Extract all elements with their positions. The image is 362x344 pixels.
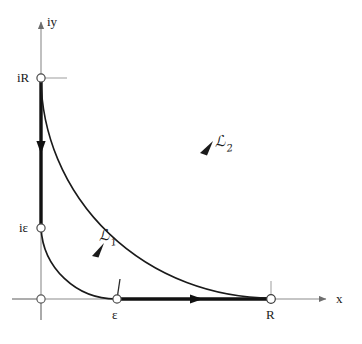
complex-contour-figure: iy x iR iε ε R ℒ1 ℒ2	[0, 0, 362, 344]
point-marker-origin	[37, 295, 45, 303]
large-arc-arrow	[200, 141, 213, 156]
contour-label-small-arc-subscript: 1	[110, 236, 118, 248]
real-axis-segment-arrow	[190, 295, 203, 304]
point-label-i-R: iR	[17, 71, 29, 84]
contour-label-large-arc-subscript: 2	[226, 142, 234, 154]
point-marker-i-epsilon	[37, 224, 45, 232]
contour-label-small-arc-letter: ℒ	[98, 226, 111, 245]
x-axis-label: x	[336, 292, 343, 305]
point-marker-i-R	[37, 74, 45, 82]
imaginary-axis-segment-arrow	[36, 141, 45, 154]
point-label-epsilon: ε	[112, 308, 117, 321]
point-label-i-epsilon: iε	[19, 221, 28, 234]
contour-label-large-arc: ℒ2	[214, 133, 233, 153]
large-arc-path	[41, 78, 271, 298]
guide-ticks	[12, 78, 271, 320]
contour-label-small-arc: ℒ1	[98, 227, 117, 247]
contour-label-large-arc-letter: ℒ	[214, 132, 227, 151]
point-label-R: R	[266, 308, 275, 321]
contour-diagram-canvas	[0, 0, 362, 344]
y-axis-label: iy	[47, 15, 57, 28]
point-marker-R	[267, 295, 276, 304]
point-marker-epsilon	[113, 295, 121, 303]
